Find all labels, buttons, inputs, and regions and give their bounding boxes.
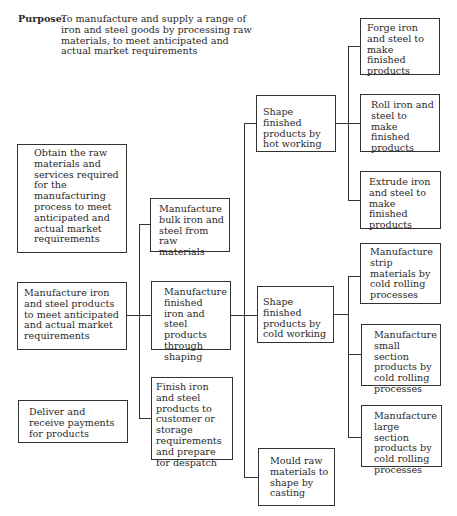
connector	[244, 477, 258, 478]
node-label: Deliver and receive payments for product…	[29, 407, 122, 439]
node-label: Manufacture large section products by co…	[374, 411, 436, 476]
node-strip: Manufacture strip materials by cold roll…	[360, 243, 441, 304]
purpose-text: To manufacture and supply a range of iro…	[61, 14, 261, 57]
node-label: Roll iron and steel to make finished pro…	[371, 100, 434, 154]
node-extrude: Extrude iron and steel to make finished …	[360, 171, 441, 229]
connector	[348, 46, 360, 47]
purpose-label: Purpose:	[18, 14, 65, 25]
connector	[348, 276, 349, 437]
node-small-section: Manufacture small section products by co…	[361, 324, 441, 386]
connector	[139, 315, 151, 316]
node-obtain: Obtain the raw materials and services re…	[17, 144, 127, 253]
node-label: Shape finished products by cold working	[263, 297, 328, 340]
node-label: Manufacture small section products by co…	[374, 330, 435, 395]
connector	[348, 200, 360, 201]
connector	[230, 315, 244, 316]
node-deliver: Deliver and receive payments for product…	[18, 400, 128, 443]
node-manufacture-products: Manufacture iron and steel products to m…	[17, 282, 127, 350]
node-label: Obtain the raw materials and services re…	[34, 148, 121, 245]
connector	[333, 314, 348, 315]
node-label: Manufacture strip materials by cold roll…	[370, 247, 435, 301]
connector	[348, 123, 360, 124]
connector	[126, 315, 139, 316]
node-large-section: Manufacture large section products by co…	[361, 405, 442, 467]
connector	[244, 123, 256, 124]
node-cold-working: Shape finished products by cold working	[257, 286, 334, 343]
node-forge: Forge iron and steel to make finished pr…	[360, 18, 440, 75]
node-hot-working: Shape finished products by hot working	[256, 95, 336, 152]
node-finished-shaping: Manufacture finished iron and steel prod…	[151, 281, 231, 350]
node-label: Finish iron and steel products to custom…	[156, 382, 227, 468]
connector	[348, 354, 361, 355]
connector	[244, 123, 245, 477]
connector	[139, 224, 150, 225]
connector	[348, 437, 361, 438]
node-label: Extrude iron and steel to make finished …	[369, 177, 435, 231]
node-roll: Roll iron and steel to make finished pro…	[360, 94, 440, 152]
node-bulk: Manufacture bulk iron and steel from raw…	[150, 198, 230, 252]
node-label: Manufacture iron and steel products to m…	[24, 288, 121, 342]
connector	[348, 276, 360, 277]
node-label: Mould raw materials to shape by casting	[270, 456, 329, 499]
connector	[139, 224, 140, 418]
connector	[244, 315, 257, 316]
node-label: Forge iron and steel to make finished pr…	[367, 23, 434, 77]
node-label: Manufacture finished iron and steel prod…	[164, 287, 225, 363]
connector	[139, 418, 151, 419]
node-label: Shape finished products by hot working	[263, 107, 330, 150]
node-finish-despatch: Finish iron and steel products to custom…	[151, 377, 233, 460]
node-casting: Mould raw materials to shape by casting	[258, 448, 335, 506]
node-label: Manufacture bulk iron and steel from raw…	[159, 204, 224, 258]
connector	[335, 123, 348, 124]
